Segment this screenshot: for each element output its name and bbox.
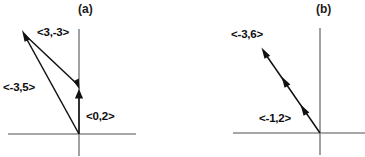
- panel-b-plot: [183, 0, 365, 157]
- panel-b-vector-mid-arrowhead: [282, 77, 291, 88]
- panel-a-vector-label-3: <0,2>: [86, 110, 114, 122]
- panel-a-vector-label-2: <-3,5>: [3, 81, 35, 93]
- vector-addition-figure: (a) <3,-3> <-3,5> <0,2> (b): [0, 0, 365, 157]
- panel-b-vector-neg3-6-arrowhead: [262, 48, 271, 59]
- panel-b: (b) <-3,6> <-1,2>: [183, 0, 365, 157]
- panel-b-vector-neg1-2-arrowhead: [301, 105, 310, 116]
- panel-a-vector-3-neg3-arrowhead: [74, 79, 80, 90]
- panel-a-vector-3-neg3-shaft: [24, 34, 77, 84]
- panel-b-vector-label-2: <-1,2>: [259, 112, 291, 124]
- panel-a: (a) <3,-3> <-3,5> <0,2>: [0, 0, 183, 157]
- panel-a-plot: [0, 0, 183, 157]
- panel-a-vector-label-1: <3,-3>: [37, 26, 69, 38]
- panel-b-vector-label-1: <-3,6>: [231, 28, 263, 40]
- panel-a-vector-0-2-arrowhead: [75, 89, 83, 99]
